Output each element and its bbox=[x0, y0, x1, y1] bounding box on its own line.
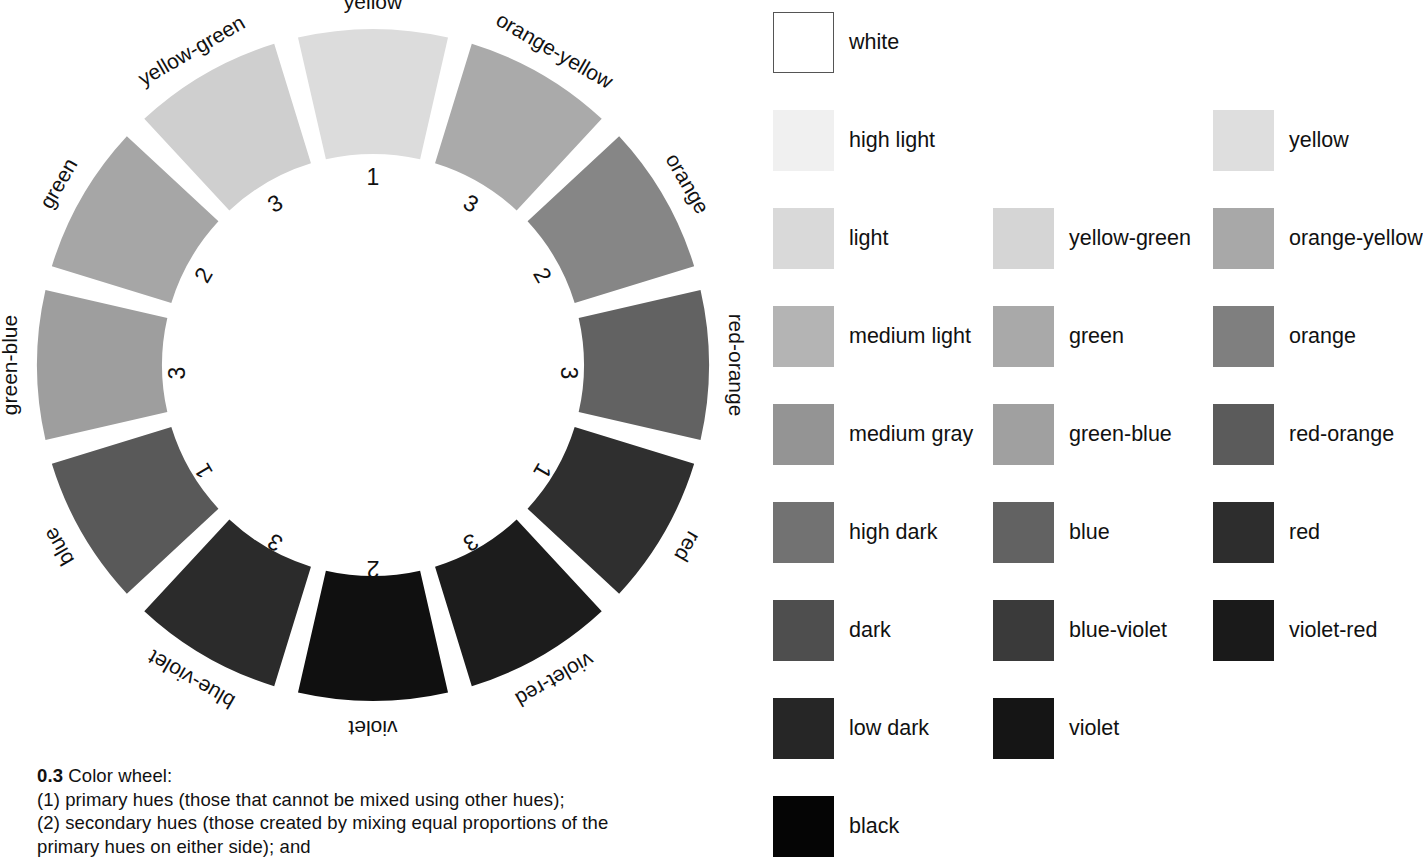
legend-swatch-high-dark bbox=[773, 502, 834, 563]
wheel-label-blue: blue bbox=[38, 524, 78, 570]
wheel-rank-yellow-green: 3 bbox=[263, 189, 287, 218]
legend-swatch-orange bbox=[1213, 306, 1274, 367]
legend-swatch-blue-violet bbox=[993, 600, 1054, 661]
wheel-label-green: green bbox=[35, 154, 82, 212]
legend-swatch-blue bbox=[993, 502, 1054, 563]
wheel-label-violet: violet bbox=[348, 717, 397, 740]
legend-label-blue: blue bbox=[1069, 502, 1110, 563]
legend-label-light: light bbox=[849, 208, 888, 269]
wheel-segment-green-blue bbox=[37, 290, 167, 440]
legend-swatch-green-blue bbox=[993, 404, 1054, 465]
wheel-label-yellow: yellow bbox=[344, 0, 403, 13]
legend-label-green-blue: green-blue bbox=[1069, 404, 1172, 465]
wheel-rank-red-orange: 3 bbox=[556, 367, 582, 380]
legend-swatch-green bbox=[993, 306, 1054, 367]
wheel-segment-group bbox=[37, 29, 709, 701]
legend-label-orange-yellow: orange-yellow bbox=[1289, 208, 1423, 269]
wheel-segment-violet bbox=[298, 571, 448, 701]
legend-swatch-orange-yellow bbox=[1213, 208, 1274, 269]
color-wheel: yelloworange-yelloworangered-orangeredvi… bbox=[0, 0, 750, 760]
legend-label-medium-gray: medium gray bbox=[849, 404, 973, 465]
legend-label-violet-red: violet-red bbox=[1289, 600, 1377, 661]
figure-caption: 0.3 Color wheel: (1) primary hues (those… bbox=[37, 764, 677, 858]
wheel-label-green-blue: green-blue bbox=[0, 315, 21, 415]
caption-line-1: (1) primary hues (those that cannot be m… bbox=[37, 788, 677, 812]
legend-label-dark: dark bbox=[849, 600, 891, 661]
legend-swatch-light bbox=[773, 208, 834, 269]
legend-swatch-yellow bbox=[1213, 110, 1274, 171]
legend-swatch-violet bbox=[993, 698, 1054, 759]
wheel-segment-yellow bbox=[298, 29, 448, 159]
legend-label-yellow: yellow bbox=[1289, 110, 1349, 171]
wheel-rank-violet: 2 bbox=[367, 556, 380, 582]
legend-label-black: black bbox=[849, 796, 899, 857]
caption-title: Color wheel: bbox=[68, 765, 172, 786]
wheel-number-group: 132313231323 bbox=[164, 164, 582, 582]
wheel-rank-orange-yellow: 3 bbox=[459, 189, 483, 218]
legend-label-blue-violet: blue-violet bbox=[1069, 600, 1167, 661]
wheel-label-red: red bbox=[670, 528, 705, 566]
legend-label-red: red bbox=[1289, 502, 1320, 563]
legend-swatch-yellow-green bbox=[993, 208, 1054, 269]
legend-label-low-dark: low dark bbox=[849, 698, 929, 759]
legend-swatch-white bbox=[773, 12, 834, 73]
legend-swatch-red bbox=[1213, 502, 1274, 563]
legend-swatch-medium-light bbox=[773, 306, 834, 367]
legend-label-green: green bbox=[1069, 306, 1124, 367]
wheel-rank-green: 2 bbox=[189, 263, 218, 287]
color-wheel-svg: yelloworange-yelloworangered-orangeredvi… bbox=[0, 0, 750, 760]
caption-line-3: primary hues on either side); and bbox=[37, 835, 677, 859]
legend-swatch-low-dark bbox=[773, 698, 834, 759]
legend-label-high-dark: high dark bbox=[849, 502, 937, 563]
legend-swatch-violet-red bbox=[1213, 600, 1274, 661]
caption-title-line: 0.3 Color wheel: bbox=[37, 764, 677, 788]
legend-label-red-orange: red-orange bbox=[1289, 404, 1394, 465]
legend-label-yellow-green: yellow-green bbox=[1069, 208, 1191, 269]
wheel-rank-red: 1 bbox=[528, 459, 557, 483]
wheel-rank-yellow: 1 bbox=[367, 164, 380, 190]
wheel-rank-blue-violet: 3 bbox=[263, 528, 287, 557]
wheel-label-red-orange: red-orange bbox=[725, 314, 748, 417]
wheel-rank-green-blue: 3 bbox=[164, 367, 190, 380]
wheel-rank-blue: 1 bbox=[189, 459, 218, 483]
legend-swatch-medium-gray bbox=[773, 404, 834, 465]
legend-label-high-light: high light bbox=[849, 110, 935, 171]
legend-label-violet: violet bbox=[1069, 698, 1119, 759]
caption-line-2: (2) secondary hues (those created by mix… bbox=[37, 811, 677, 835]
legend-swatch-dark bbox=[773, 600, 834, 661]
legend-swatch-black bbox=[773, 796, 834, 857]
wheel-rank-violet-red: 3 bbox=[459, 528, 483, 557]
legend-label-white: white bbox=[849, 12, 899, 73]
legend-swatch-red-orange bbox=[1213, 404, 1274, 465]
caption-number: 0.3 bbox=[37, 765, 63, 786]
legend-label-orange: orange bbox=[1289, 306, 1356, 367]
wheel-segment-red-orange bbox=[579, 290, 709, 440]
legend-label-medium-light: medium light bbox=[849, 306, 971, 367]
wheel-rank-orange: 2 bbox=[528, 263, 557, 287]
legend-swatch-high-light bbox=[773, 110, 834, 171]
